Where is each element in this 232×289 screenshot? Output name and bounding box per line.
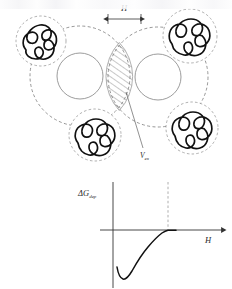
- schematic-panel: H Vex: [16, 3, 218, 161]
- depletion-interaction-figure: H Vex ΔGdep H: [0, 0, 232, 289]
- excluded-volume-label: Vex: [140, 151, 150, 161]
- separation-dimension: H: [108, 3, 141, 24]
- x-axis-label: H: [204, 235, 212, 245]
- polymer-coil-bottom-right: [166, 102, 218, 154]
- separation-label: H: [120, 3, 128, 13]
- free-energy-plot: ΔGdep H: [77, 182, 222, 288]
- excluded-volume-callout: Vex: [126, 92, 150, 161]
- figure-canvas: H Vex ΔGdep H: [0, 0, 232, 289]
- left-colloid: [57, 53, 103, 99]
- polymer-coil-top-left: [16, 16, 66, 66]
- y-axis-label: ΔGdep: [77, 188, 97, 199]
- polymer-coil-top-right: [163, 9, 217, 63]
- callout-leader-line: [126, 92, 143, 148]
- depletion-energy-curve: [117, 230, 176, 279]
- right-colloid: [135, 54, 181, 100]
- polymer-coil-bottom-left: [69, 109, 121, 161]
